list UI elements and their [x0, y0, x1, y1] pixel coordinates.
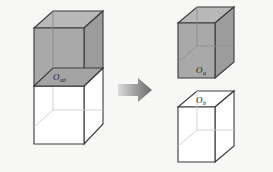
combined-box-label-base: O — [53, 72, 60, 82]
cube-a: O a — [178, 7, 234, 78]
cube-a-label-base: O — [196, 65, 203, 75]
combined-box-lower-front — [34, 86, 84, 144]
cube-b-label-base: O — [196, 95, 203, 105]
combined-box: O ab — [34, 11, 103, 144]
cube-b-label-subscript: b — [203, 100, 206, 106]
diagram-svg: O ab O a O b — [0, 0, 273, 172]
figure-canvas: O ab O a O b — [0, 0, 273, 172]
combined-box-label-subscript: ab — [60, 77, 66, 83]
arrow-shape — [118, 78, 152, 102]
cube-b: O b — [178, 91, 234, 162]
rightwards-arrow-icon — [118, 78, 152, 102]
cube-a-label-subscript: a — [203, 70, 206, 76]
cube-b-front-face — [178, 107, 215, 162]
